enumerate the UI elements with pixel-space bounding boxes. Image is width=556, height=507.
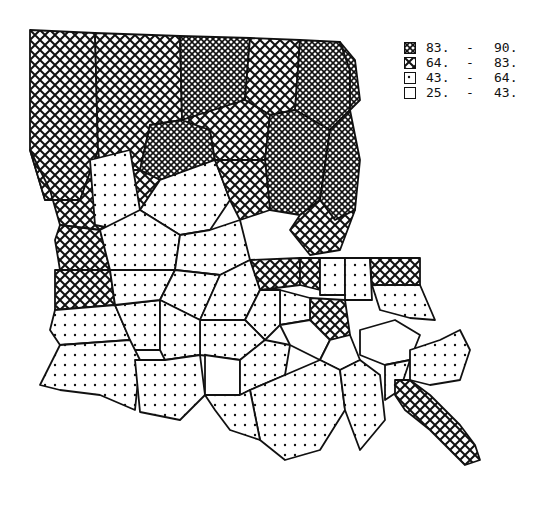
parish-plaquemines bbox=[395, 380, 480, 465]
parish-fp3 bbox=[320, 258, 345, 295]
parish-fp2 bbox=[300, 258, 320, 290]
dots-swatch-icon bbox=[404, 72, 416, 84]
parish-s16 bbox=[205, 390, 260, 440]
legend-low-value: 25. bbox=[426, 85, 466, 100]
legend-low-value: 64. bbox=[426, 55, 466, 70]
parish-fp5 bbox=[370, 258, 420, 285]
legend-dash: - bbox=[466, 55, 494, 70]
parish-s9 bbox=[135, 355, 205, 420]
parish-s15 bbox=[340, 360, 385, 450]
legend-high-value: 83. bbox=[494, 55, 517, 70]
parish-fp6 bbox=[372, 285, 435, 320]
crosshatch-swatch-icon bbox=[404, 57, 416, 69]
legend-row-43-64: 43. - 64. bbox=[404, 70, 517, 85]
legend-row-64-83: 64. - 83. bbox=[404, 55, 517, 70]
legend-high-value: 43. bbox=[494, 85, 517, 100]
legend-high-value: 90. bbox=[494, 40, 517, 55]
parish-fp4 bbox=[345, 258, 372, 300]
dense-crosshatch-swatch-icon bbox=[404, 42, 416, 54]
parish-n4 bbox=[245, 38, 300, 115]
legend-row-83-90: 83. - 90. bbox=[404, 40, 517, 55]
legend-row-25-43: 25. - 43. bbox=[404, 85, 517, 100]
legend-dash: - bbox=[466, 40, 494, 55]
parish-w3 bbox=[55, 270, 115, 310]
legend: 83. - 90. 64. - 83. 43. - 64. 25. - 43. bbox=[404, 40, 517, 100]
legend-low-value: 43. bbox=[426, 70, 466, 85]
parish-fp8 bbox=[280, 290, 310, 325]
parish-s10 bbox=[205, 355, 240, 395]
legend-high-value: 64. bbox=[494, 70, 517, 85]
blank-swatch-icon bbox=[404, 87, 416, 99]
legend-dash: - bbox=[466, 85, 494, 100]
legend-low-value: 83. bbox=[426, 40, 466, 55]
legend-dash: - bbox=[466, 70, 494, 85]
parish-sw bbox=[40, 340, 140, 410]
